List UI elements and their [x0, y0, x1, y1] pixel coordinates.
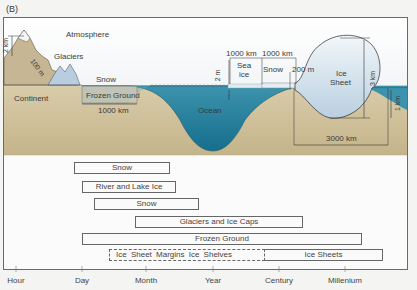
bar-ice-sheet-margins-shelves: Ice Sheet Margins Ice Shelves [109, 249, 265, 261]
ice-sheet-label-1: Ice [336, 69, 347, 78]
bar-ice-sheets: Ice Sheets [265, 249, 383, 261]
ocean-label: Ocean [198, 106, 222, 115]
tick-millenium: Millenium [328, 276, 362, 285]
frozen-ground-label: Frozen Ground [86, 91, 140, 100]
glaciers-label: Glaciers [54, 52, 83, 61]
tick-month: Month [135, 276, 157, 285]
snow-on-ice-width: 1000 km [262, 49, 293, 58]
tick-year: Year [205, 276, 221, 285]
bar-frozen-ground: Frozen Ground [82, 233, 362, 245]
mountain-height-label: 2 km [2, 38, 9, 53]
sea-ice-width: 1000 km [226, 49, 257, 58]
snow-label: Snow [96, 75, 116, 84]
ice-shelf [262, 83, 297, 88]
bar-snow-2: Snow [94, 198, 199, 210]
bedrock-depth-label: 1 km [394, 96, 401, 111]
sea-ice-label-1: Sea [237, 61, 251, 70]
tick-century: Century [265, 276, 293, 285]
ice-shelf-thickness-label: 200 m [292, 65, 314, 74]
panel-label: (B) [6, 4, 18, 14]
sea-ice-label-2: ice [239, 70, 249, 79]
ice-sheet-width-label: 3000 km [326, 134, 357, 143]
cryosphere-illustration [0, 0, 417, 290]
snow-on-ice-label: Snow [263, 65, 283, 74]
bar-glaciers-ice-caps: Glaciers and Ice Caps [135, 216, 303, 228]
ice-sheet-height-label: 3 km [369, 71, 376, 86]
bar-snow-1: Snow [74, 162, 170, 174]
bar-river-lake-ice: River and Lake Ice [82, 181, 176, 193]
ice-sheet-label-2: Sheet [330, 78, 351, 87]
tick-hour: Hour [7, 276, 24, 285]
frozen-ground-width: 1000 km [98, 106, 129, 115]
atmosphere-label: Atmosphere [66, 30, 109, 39]
tick-day: Day [75, 276, 89, 285]
continent-label: Continent [14, 94, 48, 103]
sea-ice-thickness-label: 2 m [214, 70, 221, 82]
